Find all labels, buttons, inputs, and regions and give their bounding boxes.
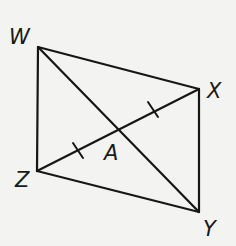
label-z: Z [14, 168, 30, 192]
label-y: Y [203, 217, 218, 241]
side-wx [38, 47, 199, 89]
side-yz [37, 171, 199, 212]
quadrilateral-diagram: W X Y Z A [0, 0, 236, 246]
tick-mark-za [73, 143, 83, 158]
label-a: A [102, 141, 118, 165]
label-x: X [206, 79, 222, 103]
side-zw [37, 47, 38, 171]
label-w: W [9, 25, 31, 49]
